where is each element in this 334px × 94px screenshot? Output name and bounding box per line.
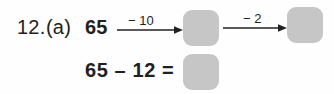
right-arrow-icon (223, 22, 287, 34)
chain-result-box-1[interactable] (183, 10, 219, 46)
equation-expression: 65 – 12 = (85, 60, 174, 80)
right-arrow-icon (117, 24, 183, 36)
question-part-label: (a) (46, 17, 71, 37)
chain-result-box-2[interactable] (287, 7, 323, 43)
worksheet-problem: 12. (a) 65 − 10 − 2 65 – 12 = (0, 0, 334, 94)
question-number: 12. (17, 17, 45, 37)
equation-answer-box[interactable] (183, 54, 219, 90)
chain-start-number: 65 (85, 17, 108, 37)
